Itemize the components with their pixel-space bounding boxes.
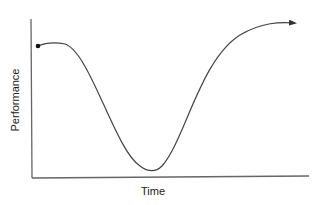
performance-chart	[0, 0, 316, 205]
start-point-dot	[36, 44, 41, 49]
performance-curve	[38, 23, 295, 171]
y-axis	[31, 19, 32, 178]
y-axis-label: Performance	[9, 69, 21, 132]
x-axis-label: Time	[141, 185, 165, 197]
x-axis	[32, 176, 309, 178]
